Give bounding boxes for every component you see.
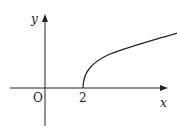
origin-label: O [33, 92, 43, 104]
x-axis-arrow-icon [160, 85, 168, 91]
y-axis [42, 14, 48, 126]
y-axis-arrow-icon [42, 14, 48, 22]
x-tick-label-2: 2 [79, 92, 87, 104]
graph-canvas [0, 0, 177, 128]
function-curve [83, 33, 177, 88]
y-axis-label: y [31, 13, 38, 25]
x-axis-label: x [160, 97, 167, 109]
